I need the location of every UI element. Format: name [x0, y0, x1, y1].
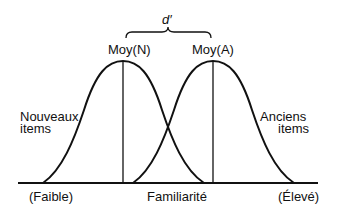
axis-high-label: (Élevé) [278, 190, 319, 204]
mean-new-label: Moy(N) [108, 43, 151, 57]
mean-old-label: Moy(A) [192, 43, 234, 57]
new-items-label-line2: items [20, 122, 51, 136]
axis-low-label: (Faible) [29, 190, 73, 204]
d-prime-label: d′ [162, 13, 172, 27]
d-prime-brace [126, 27, 211, 38]
diagram-canvas [0, 0, 339, 211]
axis-title: Familiarité [147, 190, 207, 204]
old-items-label-line2: items [278, 122, 309, 136]
